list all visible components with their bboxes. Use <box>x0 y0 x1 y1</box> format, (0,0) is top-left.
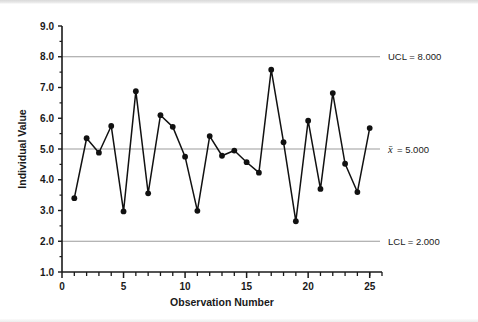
y-axis-title: Individual Value <box>16 109 28 189</box>
data-point <box>293 218 299 224</box>
control-chart-figure: 1.02.03.04.05.06.07.08.09.0 0510152025 U… <box>0 0 478 322</box>
data-point <box>354 189 360 195</box>
x-axis-tick-label: 20 <box>303 281 315 292</box>
y-axis-tick-label: 1.0 <box>40 267 54 278</box>
y-axis-tick-label: 2.0 <box>40 236 54 247</box>
x-axis-tick-label: 15 <box>241 281 253 292</box>
data-point <box>231 148 237 154</box>
x-axis: 0510152025 <box>59 272 382 292</box>
data-point <box>108 123 114 129</box>
y-axis-tick-label: 9.0 <box>40 21 54 32</box>
data-point <box>182 154 188 160</box>
data-point <box>145 190 151 196</box>
data-point <box>367 125 373 131</box>
x-axis-title: Observation Number <box>170 296 274 308</box>
data-point <box>281 139 287 145</box>
data-point <box>318 186 324 192</box>
control-limit-label-lcl: LCL = 2.000 <box>388 236 440 247</box>
data-point <box>219 153 225 159</box>
data-point <box>96 150 102 156</box>
data-point <box>121 209 127 215</box>
data-point <box>244 159 250 165</box>
data-point <box>158 112 164 118</box>
control-limit-labels: UCL = 8.000x̄= 5.000LCL = 2.000 <box>387 51 441 247</box>
individuals-control-chart: 1.02.03.04.05.06.07.08.09.0 0510152025 U… <box>0 0 478 322</box>
data-point <box>170 124 176 130</box>
y-axis-tick-label: 7.0 <box>40 82 54 93</box>
x-axis-tick-label: 10 <box>180 281 192 292</box>
data-point <box>71 195 77 201</box>
data-point <box>194 208 200 214</box>
y-axis: 1.02.03.04.05.06.07.08.09.0 <box>40 21 62 278</box>
x-axis-tick-label: 0 <box>59 281 65 292</box>
data-point <box>330 90 336 96</box>
x-axis-tick-label: 5 <box>121 281 127 292</box>
data-point <box>256 170 262 176</box>
control-limit-label-center: = 5.000 <box>397 144 429 155</box>
control-limit-label-ucl: UCL = 8.000 <box>388 51 441 62</box>
y-axis-tick-label: 8.0 <box>40 51 54 62</box>
data-point <box>133 88 139 94</box>
data-point <box>268 67 274 73</box>
data-point <box>305 118 311 124</box>
data-point <box>84 135 90 141</box>
y-axis-tick-label: 3.0 <box>40 205 54 216</box>
y-axis-tick-label: 5.0 <box>40 144 54 155</box>
y-axis-tick-label: 6.0 <box>40 113 54 124</box>
data-point <box>207 133 213 139</box>
y-axis-tick-label: 4.0 <box>40 174 54 185</box>
data-point <box>342 161 348 167</box>
x-axis-tick-label: 25 <box>364 281 376 292</box>
center-line-symbol: x̄ <box>387 144 393 155</box>
